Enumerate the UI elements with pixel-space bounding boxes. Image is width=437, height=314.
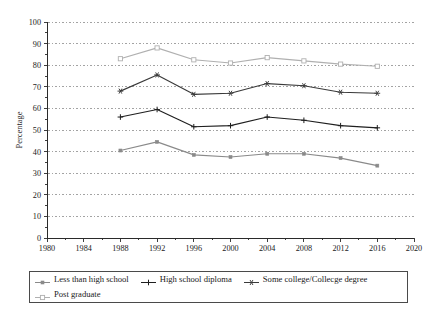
data-point-marker-open-square: [265, 56, 269, 60]
y-tick-label-10: 10: [33, 212, 41, 221]
legend-label-3: Post graduate: [54, 289, 101, 300]
data-point-marker-star: [301, 83, 307, 88]
plot-area: 0102030405060708090100 19801984198819921…: [0, 0, 437, 258]
data-point-marker-small-square: [192, 153, 195, 156]
legend-label-1: High school diploma: [160, 274, 232, 285]
data-point-marker-star: [191, 92, 197, 97]
data-point-marker-open-square: [228, 61, 232, 65]
legend-entry-1[interactable]: High school diploma: [140, 274, 232, 285]
data-point-marker-star: [374, 91, 380, 96]
legend-label-2: Some college/Collecge degree: [263, 274, 368, 285]
gridlines-group: [48, 22, 414, 216]
data-point-marker-plus: [338, 123, 344, 129]
y-tick-label-20: 20: [33, 191, 41, 200]
y-tick-label-80: 80: [33, 61, 41, 70]
series-0: [119, 140, 379, 167]
data-point-marker-small-square: [376, 164, 379, 167]
legend-marker-wrap-0: [34, 274, 51, 285]
y-tick-label-40: 40: [33, 148, 41, 157]
y-tick-label-0: 0: [37, 234, 41, 243]
x-tick-label-1984: 1984: [76, 244, 92, 253]
x-tick-label-2016: 2016: [369, 244, 385, 253]
x-tick-label-1988: 1988: [112, 244, 128, 253]
x-tick-label-2008: 2008: [296, 244, 312, 253]
data-point-marker-open-square: [192, 58, 196, 62]
chart-legend: Less than high schoolHigh school diploma…: [29, 271, 408, 303]
data-point-marker-plus: [228, 123, 234, 129]
data-point-marker-small-square: [119, 149, 122, 152]
series-2: [118, 72, 381, 96]
legend-marker-small-square: [34, 277, 51, 288]
legend-entry-3[interactable]: Post graduate: [34, 289, 101, 300]
y-tick-label-90: 90: [33, 40, 41, 49]
data-point-marker-small-square: [266, 152, 269, 155]
series-line-0: [120, 142, 377, 166]
data-point-marker-small-square: [229, 156, 232, 159]
data-point-marker-open-square: [118, 57, 122, 61]
data-point-marker-star: [264, 81, 270, 86]
legend-marker-plus: [140, 277, 157, 288]
data-point-marker-small-square: [41, 281, 44, 284]
legend-marker-open-square: [34, 292, 51, 303]
y-tick-label-60: 60: [33, 104, 41, 113]
x-tick-label-2012: 2012: [332, 244, 348, 253]
legend-marker-wrap-2: [243, 274, 260, 285]
axis-labels-layer: Election YearPercentage: [15, 111, 253, 258]
data-point-marker-open-square: [40, 295, 44, 299]
x-tick-label-2020: 2020: [406, 244, 422, 253]
data-point-marker-plus: [301, 117, 307, 123]
data-point-marker-open-square: [375, 64, 379, 68]
y-tick-label-70: 70: [33, 83, 41, 92]
x-tick-label-1996: 1996: [186, 244, 202, 253]
y-axis-title: Percentage: [15, 111, 24, 148]
series-1: [118, 107, 381, 131]
data-point-marker-small-square: [339, 157, 342, 160]
data-point-marker-plus: [375, 125, 381, 131]
y-tick-label-30: 30: [33, 169, 41, 178]
series-layer: [118, 46, 381, 167]
x-tick-label-2000: 2000: [222, 244, 238, 253]
data-point-marker-star: [248, 280, 254, 285]
x-axis-ticks-group: 1980198419881992199620002004200820122016…: [39, 238, 422, 253]
data-point-marker-star: [154, 72, 160, 77]
legend-row-secondary: Post graduate: [30, 287, 407, 302]
legend-marker-wrap-1: [140, 274, 157, 285]
data-point-marker-open-square: [155, 46, 159, 50]
legend-row-primary: Less than high schoolHigh school diploma…: [30, 272, 407, 287]
y-axis-ticks-group: 0102030405060708090100: [29, 18, 47, 243]
data-point-marker-small-square: [302, 152, 305, 155]
y-tick-label-50: 50: [33, 126, 41, 135]
data-point-marker-plus: [145, 280, 151, 286]
legend-label-0: Less than high school: [54, 274, 129, 285]
x-tick-label-1992: 1992: [149, 244, 165, 253]
data-point-marker-star: [338, 90, 344, 95]
series-line-2: [120, 75, 377, 94]
x-tick-label-1980: 1980: [39, 244, 55, 253]
legend-entry-0[interactable]: Less than high school: [34, 274, 129, 285]
legend-marker-wrap-3: [34, 289, 51, 300]
data-point-marker-open-square: [302, 59, 306, 63]
data-point-marker-plus: [264, 114, 270, 120]
data-point-marker-star: [228, 91, 234, 96]
data-point-marker-plus: [118, 114, 124, 120]
data-point-marker-plus: [154, 107, 160, 113]
data-point-marker-plus: [191, 124, 197, 130]
series-line-1: [120, 109, 377, 127]
line-chart-svg: 0102030405060708090100 19801984198819921…: [0, 0, 437, 258]
x-tick-label-2004: 2004: [259, 244, 275, 253]
chart-figure: 0102030405060708090100 19801984198819921…: [0, 0, 437, 314]
legend-entry-2[interactable]: Some college/Collecge degree: [243, 274, 368, 285]
data-point-marker-star: [118, 89, 124, 94]
data-point-marker-open-square: [339, 62, 343, 66]
legend-marker-star: [243, 277, 260, 288]
x-axis-title: Election Year: [208, 257, 253, 258]
data-point-marker-small-square: [156, 140, 159, 143]
y-tick-label-100: 100: [29, 18, 41, 27]
